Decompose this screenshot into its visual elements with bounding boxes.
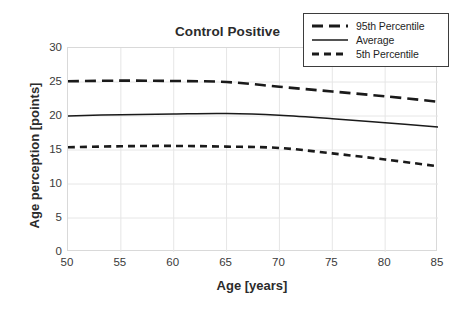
series-line-95th-percentile <box>68 81 438 102</box>
chart-title: Control Positive <box>140 24 315 39</box>
y-tick-label: 20 <box>36 109 62 121</box>
x-tick-label: 85 <box>417 256 457 268</box>
legend-item-label: 95th Percentile <box>350 20 425 32</box>
x-tick-label: 55 <box>100 256 140 268</box>
solid-line-icon <box>310 34 350 46</box>
x-axis-tick-labels: 5055606570758085 <box>67 256 437 274</box>
x-tick-label: 75 <box>311 256 351 268</box>
plot-area <box>67 47 437 251</box>
y-tick-label: 5 <box>36 211 62 223</box>
x-axis-title: Age [years] <box>67 278 437 293</box>
chart-figure: Control Positive Age perception [points]… <box>0 0 463 316</box>
chart-legend: 95th PercentileAverage5th Percentile <box>303 13 449 67</box>
legend-item: 95th Percentile <box>310 19 441 33</box>
x-tick-label: 70 <box>258 256 298 268</box>
y-axis-tick-labels: 051015202530 <box>34 47 62 251</box>
y-tick-label: 25 <box>36 75 62 87</box>
long-dash-line-icon <box>310 20 350 32</box>
x-tick-label: 60 <box>153 256 193 268</box>
y-tick-label: 30 <box>36 41 62 53</box>
series-line-5th-percentile <box>68 146 438 166</box>
x-tick-label: 65 <box>206 256 246 268</box>
plot-canvas <box>68 48 438 252</box>
legend-item-label: Average <box>350 34 394 46</box>
x-tick-label: 80 <box>364 256 404 268</box>
y-tick-label: 10 <box>36 177 62 189</box>
x-tick-label: 50 <box>47 256 87 268</box>
short-dash-line-icon <box>310 48 350 60</box>
legend-item-label: 5th Percentile <box>350 48 419 60</box>
legend-item: Average <box>310 33 441 47</box>
legend-item: 5th Percentile <box>310 47 441 61</box>
y-tick-label: 15 <box>36 143 62 155</box>
